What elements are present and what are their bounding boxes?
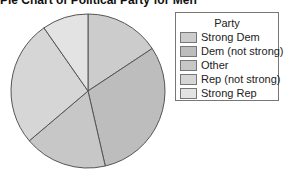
legend-label: Rep (not strong) — [201, 72, 280, 86]
legend-swatch — [180, 60, 197, 71]
legend-label: Other — [201, 58, 229, 72]
legend-item-strong-rep: Strong Rep — [180, 86, 278, 100]
legend-label: Strong Dem — [201, 30, 260, 44]
legend-label: Dem (not strong) — [201, 44, 284, 58]
legend-item-rep-not-strong: Rep (not strong) — [180, 72, 278, 86]
legend-swatch — [180, 46, 197, 57]
legend-swatch — [180, 88, 197, 99]
legend: Party Strong Dem Dem (not strong) Other … — [175, 12, 279, 101]
legend-swatch — [180, 74, 197, 85]
pie-chart — [0, 0, 175, 176]
pie-slices — [11, 14, 165, 168]
legend-swatch — [180, 32, 197, 43]
legend-title: Party — [176, 16, 278, 30]
legend-label: Strong Rep — [201, 86, 257, 100]
legend-item-dem-not-strong: Dem (not strong) — [180, 44, 278, 58]
legend-item-strong-dem: Strong Dem — [180, 30, 278, 44]
legend-item-other: Other — [180, 58, 278, 72]
